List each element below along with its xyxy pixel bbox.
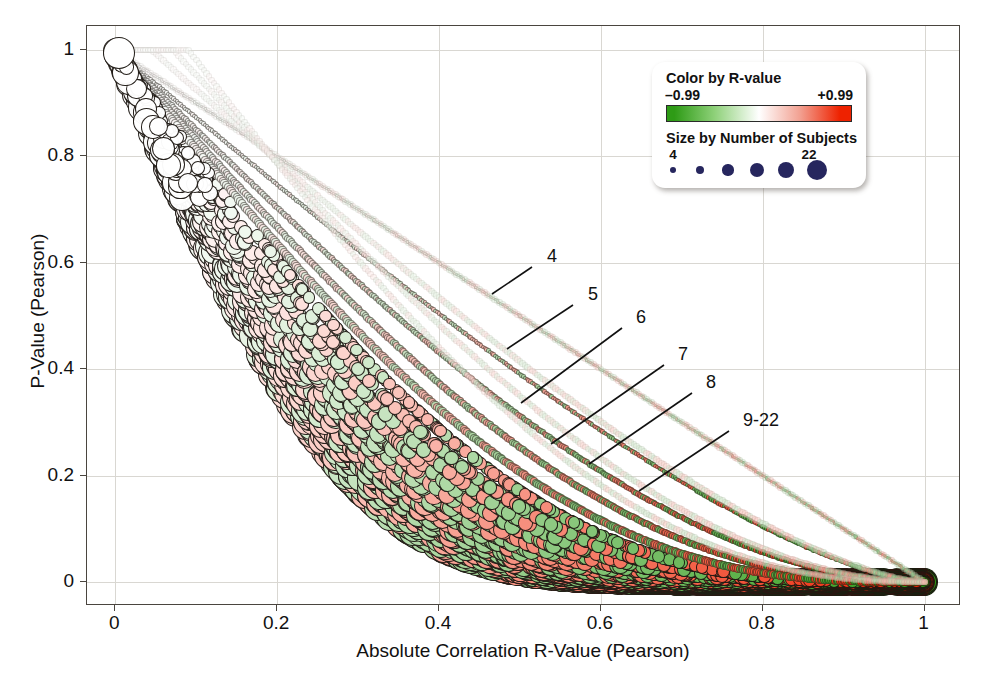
x-tick bbox=[114, 605, 115, 611]
y-tick bbox=[80, 49, 86, 50]
y-tick-label: 0 bbox=[63, 570, 74, 592]
annotation-label-5: 5 bbox=[588, 284, 598, 305]
data-bubble bbox=[483, 480, 497, 494]
x-tick bbox=[924, 605, 925, 611]
cropped-title-artifact bbox=[0, 0, 982, 12]
data-bubble bbox=[238, 225, 252, 239]
annotation-label-8: 8 bbox=[706, 372, 716, 393]
legend-size-min-label: 4 bbox=[669, 147, 677, 162]
x-axis-title: Absolute Correlation R-Value (Pearson) bbox=[86, 640, 960, 662]
y-axis-title: P-Value (Pearson) bbox=[27, 181, 49, 441]
x-tick bbox=[762, 605, 763, 611]
legend-size-dot bbox=[670, 167, 676, 173]
y-tick-label: 1 bbox=[63, 38, 74, 60]
data-bubble bbox=[339, 331, 352, 344]
y-tick bbox=[80, 581, 86, 582]
data-bubble bbox=[319, 310, 332, 323]
y-tick-label: 0.2 bbox=[48, 464, 74, 486]
chart-root: 00.20.40.60.8100.20.40.60.81 456789-22 A… bbox=[0, 0, 982, 679]
data-bubble bbox=[652, 550, 665, 563]
pale-bubble bbox=[191, 161, 205, 175]
annotation-label-7: 7 bbox=[678, 344, 688, 365]
annotation-label-6: 6 bbox=[636, 307, 646, 328]
gridline-horizontal bbox=[87, 50, 959, 51]
legend-size-dot bbox=[696, 166, 705, 175]
legend-color-max-label: +0.99 bbox=[818, 87, 853, 103]
y-tick-label: 0.4 bbox=[48, 357, 74, 379]
data-bubble bbox=[627, 542, 640, 555]
data-bubble bbox=[362, 356, 375, 369]
x-tick-label: 0.4 bbox=[425, 612, 451, 634]
x-tick bbox=[276, 605, 277, 611]
x-tick-label: 0.6 bbox=[587, 612, 613, 634]
data-bubble bbox=[303, 291, 316, 304]
chart-legend: Color by R-value –0.99 +0.99 Size by Num… bbox=[652, 62, 866, 188]
annotation-label-9-22: 9-22 bbox=[743, 410, 779, 431]
x-tick-label: 1 bbox=[918, 612, 929, 634]
gridline-vertical bbox=[115, 26, 116, 604]
gridline-horizontal bbox=[87, 369, 959, 370]
x-tick bbox=[438, 605, 439, 611]
data-bubble bbox=[434, 425, 447, 438]
y-tick bbox=[80, 155, 86, 156]
y-tick bbox=[80, 475, 86, 476]
y-tick-label: 0.6 bbox=[48, 251, 74, 273]
data-bubble bbox=[540, 501, 553, 514]
data-bubble bbox=[448, 437, 461, 450]
pale-bubble bbox=[197, 177, 213, 193]
data-bubble bbox=[487, 467, 500, 480]
apex-bubble bbox=[103, 37, 135, 69]
x-tick-label: 0 bbox=[109, 612, 120, 634]
x-tick-label: 0.2 bbox=[263, 612, 289, 634]
legend-color-title: Color by R-value bbox=[666, 70, 781, 86]
data-bubble bbox=[611, 536, 624, 549]
legend-size-dot bbox=[722, 164, 733, 175]
legend-size-dot bbox=[778, 162, 794, 178]
legend-size-dot bbox=[750, 163, 764, 177]
y-tick bbox=[80, 368, 86, 369]
legend-size-dot bbox=[807, 160, 827, 180]
y-tick-label: 0.8 bbox=[48, 144, 74, 166]
annotation-label-4: 4 bbox=[547, 246, 557, 267]
y-tick bbox=[80, 262, 86, 263]
gridline-vertical bbox=[925, 26, 926, 604]
color-gradient-bar bbox=[666, 105, 852, 122]
x-tick bbox=[600, 605, 601, 611]
x-tick-label: 0.8 bbox=[748, 612, 774, 634]
legend-color-min-label: –0.99 bbox=[665, 87, 700, 103]
legend-size-title: Size by Number of Subjects bbox=[666, 130, 857, 146]
